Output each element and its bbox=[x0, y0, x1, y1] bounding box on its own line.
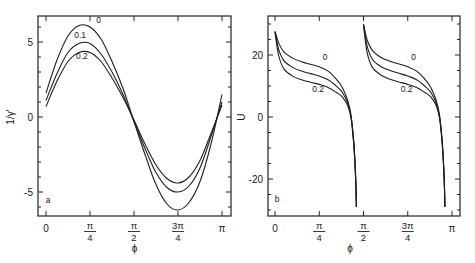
panel-b-frame bbox=[268, 16, 460, 216]
y-tick-label: 0 bbox=[27, 112, 33, 123]
svg-text:π: π bbox=[316, 220, 323, 231]
curve-label: 0 bbox=[323, 52, 328, 62]
y-tick-label: 0 bbox=[257, 112, 263, 123]
svg-text:π: π bbox=[360, 220, 367, 231]
x-tick-fraction-label: π2 bbox=[128, 220, 140, 243]
curve-label: 0 bbox=[411, 52, 416, 62]
x-tick-fraction-label: π4 bbox=[84, 220, 96, 243]
svg-text:4: 4 bbox=[317, 232, 322, 243]
y-tick-label: -20 bbox=[249, 174, 264, 185]
curve-0.1 bbox=[364, 25, 445, 207]
svg-text:4: 4 bbox=[405, 232, 410, 243]
svg-text:2: 2 bbox=[131, 232, 136, 243]
svg-text:4: 4 bbox=[175, 232, 180, 243]
svg-text:π: π bbox=[131, 220, 138, 231]
x-tick-label: π bbox=[219, 223, 226, 234]
svg-text:4: 4 bbox=[87, 232, 92, 243]
y-axis-label: 1/γ' bbox=[5, 109, 16, 124]
y-tick-label: -5 bbox=[24, 187, 33, 198]
x-axis-label: ϕ bbox=[132, 243, 138, 254]
curve-label: 0 bbox=[96, 15, 101, 25]
x-tick-label: 0 bbox=[272, 223, 278, 234]
curve-0 bbox=[46, 25, 222, 210]
x-tick-label: 0 bbox=[43, 223, 49, 234]
curve-0 bbox=[364, 24, 445, 207]
curve-0.2 bbox=[46, 51, 222, 183]
svg-text:π: π bbox=[87, 220, 94, 231]
x-tick-fraction-label: π4 bbox=[313, 220, 325, 243]
panel-a-plot: 0π4π23π4π50-5ϕ1/γ'00.10.2a bbox=[5, 15, 231, 255]
svg-text:3π: 3π bbox=[402, 220, 414, 231]
y-tick-label: 20 bbox=[252, 50, 264, 61]
x-tick-fraction-label: π2 bbox=[358, 220, 370, 243]
x-axis-label: ϕ bbox=[347, 243, 353, 254]
curve-label: 0.2 bbox=[76, 51, 88, 61]
svg-text:2: 2 bbox=[361, 232, 366, 243]
x-tick-fraction-label: 3π4 bbox=[402, 220, 414, 243]
curve-0.1 bbox=[46, 42, 222, 192]
curve-0.2 bbox=[275, 32, 356, 207]
curve-label: 0.1 bbox=[74, 30, 86, 40]
y-tick-label: 5 bbox=[27, 37, 33, 48]
curve-0.1 bbox=[275, 32, 356, 207]
panel-b-plot: 0π4π23π4π200-20ϕU00.200.2b bbox=[236, 16, 460, 254]
x-tick-fraction-label: 3π4 bbox=[172, 220, 184, 243]
figure: 0π4π23π4π50-5ϕ1/γ'00.10.2a 0π4π23π4π200-… bbox=[0, 0, 475, 263]
svg-text:3π: 3π bbox=[172, 220, 184, 231]
curve-0 bbox=[275, 31, 356, 207]
panel-a-letter: a bbox=[46, 195, 51, 205]
y-axis-label: U bbox=[236, 113, 247, 120]
curve-label: 0.2 bbox=[401, 84, 413, 94]
panel-b-letter: b bbox=[275, 194, 280, 204]
curve-label: 0.2 bbox=[312, 84, 324, 94]
curve-0.2 bbox=[364, 25, 445, 207]
x-tick-label: π bbox=[449, 223, 456, 234]
panel-a-frame bbox=[38, 16, 231, 216]
